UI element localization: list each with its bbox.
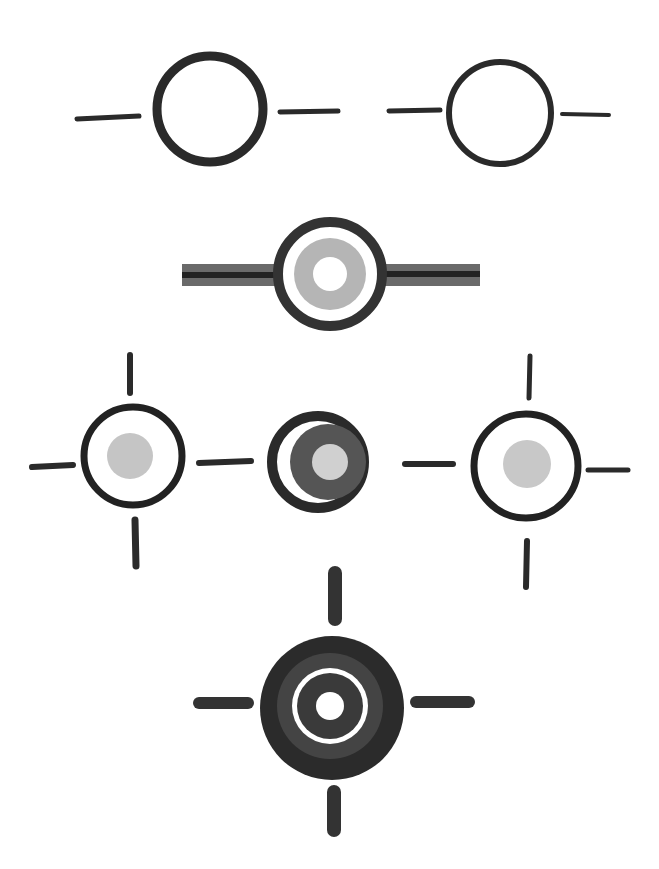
crosshair-light-dot-left — [32, 355, 251, 566]
target-dark-center — [272, 416, 366, 508]
crosshair-light-dot-right — [405, 356, 628, 587]
bold-target-crosshair — [199, 573, 469, 830]
plain-circle-with-side-ticks-1 — [77, 56, 338, 162]
plain-circle-with-side-ticks-2 — [389, 62, 609, 164]
ringed-circle-with-bar — [182, 222, 480, 326]
pencil-symbols-diagram — [0, 0, 659, 869]
